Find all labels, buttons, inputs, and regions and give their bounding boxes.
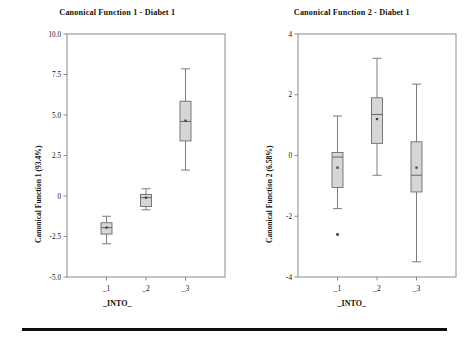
y-tick-label: -2.5: [50, 233, 62, 241]
panel-canonical-function-2: Canonical Function 2 - Diabet 1 Canonica…: [235, 0, 469, 318]
panel-2-plot-area: -4-2024_1_2_3: [235, 0, 469, 318]
y-tick-label: -4: [286, 274, 292, 282]
x-tick-label: _2: [141, 284, 150, 293]
boxplot-_1: [332, 116, 343, 236]
y-tick-label: 2.5: [52, 152, 61, 160]
panel-1-x-axis-label: _INTO_: [0, 299, 235, 308]
panel-container: Canonical Function 1 - Diabet 1 Canonica…: [0, 0, 469, 318]
boxplot-_3: [411, 84, 422, 262]
x-tick-label: _2: [372, 284, 381, 293]
x-tick-label: _3: [411, 284, 420, 293]
y-tick-label: 0: [57, 193, 61, 201]
x-tick-label: _1: [332, 284, 341, 293]
boxplot-_3: [180, 69, 191, 170]
boxplot-_2: [371, 58, 382, 175]
figure-boxplot-pair: Canonical Function 1 - Diabet 1 Canonica…: [0, 0, 469, 339]
y-tick-label: -5.0: [50, 274, 62, 282]
y-tick-label: 2: [288, 91, 292, 99]
y-tick-label: 4: [288, 31, 292, 39]
y-tick-label: 7.5: [52, 71, 61, 79]
boxplot-_1: [101, 216, 112, 244]
y-tick-label: 10.0: [48, 31, 61, 39]
outlier-point: [336, 233, 339, 236]
y-tick-label: 5.0: [52, 112, 61, 120]
footer-rule: [22, 328, 447, 331]
panel-canonical-function-1: Canonical Function 1 - Diabet 1 Canonica…: [0, 0, 235, 318]
x-tick-label: _3: [181, 284, 190, 293]
panel-2-x-axis-label: _INTO_: [235, 299, 469, 308]
y-tick-label: -2: [286, 213, 292, 221]
y-tick-label: 0: [288, 152, 292, 160]
panel-1-plot-area: -5.0-2.502.55.07.510.0_1_2_3: [0, 0, 235, 318]
x-tick-label: _1: [102, 284, 111, 293]
boxplot-_2: [141, 189, 152, 210]
